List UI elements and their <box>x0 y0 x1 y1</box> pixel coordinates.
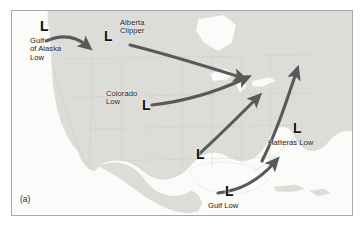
label-gulf-low: Gulf Low <box>208 202 238 210</box>
figure-caption-label: (a) <box>20 195 30 204</box>
map-frame: L L L L L L Gulf of Alaska Low Alberta C… <box>11 10 353 216</box>
label-hatteras-low: Hatteras Low <box>268 139 313 147</box>
low-marker-central-plains: L <box>196 147 205 161</box>
low-marker-hatteras: L <box>293 121 302 135</box>
label-alberta-clipper: Alberta Clipper <box>120 19 144 36</box>
low-marker-gulf: L <box>225 184 234 198</box>
low-marker-gulf-of-alaska: L <box>40 19 49 33</box>
north-america-map <box>12 11 352 215</box>
low-marker-alberta-clipper: L <box>104 29 113 43</box>
storm-track-figure: L L L L L L Gulf of Alaska Low Alberta C… <box>0 0 364 228</box>
low-marker-colorado: L <box>142 98 151 112</box>
label-gulf-of-alaska-low: Gulf of Alaska Low <box>30 37 61 62</box>
label-colorado-low: Colorado Low <box>106 90 137 107</box>
